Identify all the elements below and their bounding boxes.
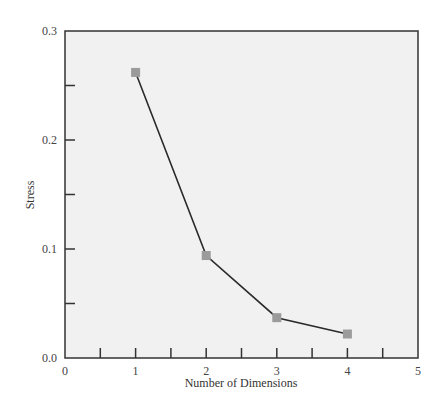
- x-axis-title: Number of Dimensions: [185, 376, 298, 390]
- data-point-marker: [272, 313, 281, 322]
- plot-area: [65, 31, 418, 358]
- data-point-marker: [202, 251, 211, 260]
- y-tick-labels: 0.00.10.20.3: [42, 24, 57, 365]
- y-tick-label: 0.3: [42, 24, 57, 38]
- x-tick-label: 5: [415, 364, 421, 378]
- y-tick-label: 0.1: [42, 242, 57, 256]
- chart: 0.00.10.20.3 012345 Number of Dimensions…: [0, 0, 446, 413]
- x-tick-label: 4: [344, 364, 350, 378]
- y-axis-title: Stress: [23, 180, 37, 209]
- x-tick-label: 1: [133, 364, 139, 378]
- data-point-marker: [343, 330, 352, 339]
- y-tick-label: 0.0: [42, 351, 57, 365]
- x-tick-label: 0: [62, 364, 68, 378]
- data-point-marker: [131, 68, 140, 77]
- y-tick-label: 0.2: [42, 133, 57, 147]
